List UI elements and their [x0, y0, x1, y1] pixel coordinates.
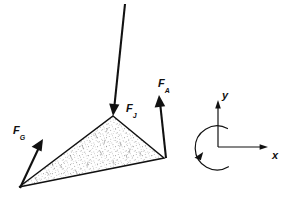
x-axis	[218, 144, 268, 150]
wedge-stipple-fill	[15, 110, 170, 195]
moment-arc-icon	[195, 126, 229, 170]
wedge-body	[15, 110, 170, 195]
coordinate-axes	[195, 100, 269, 170]
force-label-fg-base: F	[13, 124, 20, 136]
free-body-diagram: FJ FA FG y x	[0, 0, 290, 201]
y-axis	[215, 100, 221, 147]
force-label-fj-subscript: J	[133, 112, 137, 119]
force-label-fa-base: F	[158, 77, 165, 89]
x-axis-label: x	[272, 150, 278, 161]
force-label-fa: FA	[158, 74, 170, 92]
force-label-fa-subscript: A	[165, 87, 170, 94]
force-label-fg-subscript: G	[20, 134, 25, 141]
diagram-canvas	[0, 0, 290, 201]
y-axis-label: y	[222, 90, 228, 101]
force-label-fj-base: F	[126, 102, 133, 114]
force-arrow-fj	[109, 4, 125, 116]
force-label-fj: FJ	[126, 99, 137, 117]
force-label-fg: FG	[13, 121, 25, 139]
force-arrow-fa	[155, 95, 166, 158]
